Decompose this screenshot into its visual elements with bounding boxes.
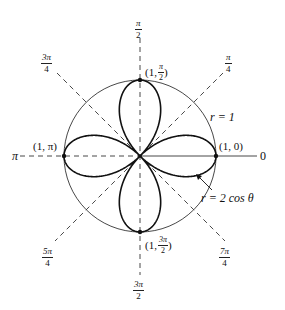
point-label-1-pi-over-2: (1, π 2 ) (145, 63, 168, 82)
angle-label-pi: π (12, 150, 18, 162)
curve-label-arrow (196, 174, 212, 190)
angle-label-pi-over-2: π 2 (135, 19, 142, 40)
angle-label-7pi-over-4: 7π 4 (219, 247, 230, 268)
angle-label-3pi-over-4: 3π 4 (41, 53, 52, 74)
point-1-3pi-over-2 (138, 230, 142, 234)
point-1-0 (214, 154, 218, 158)
angle-label-0: 0 (260, 150, 266, 162)
angle-label-3pi-over-2: 3π 2 (133, 280, 144, 301)
angle-label-5pi-over-4: 5π 4 (42, 247, 53, 268)
angle-label-pi-over-4: π 4 (225, 53, 232, 74)
curve-equation-label: r = 2 cos θ (201, 192, 254, 204)
point-label-1-3pi-over-2: (1, 3π 2 ) (145, 236, 172, 255)
point-1-pi (62, 154, 66, 158)
unit-circle-label: r = 1 (210, 111, 235, 123)
origin-point (138, 154, 142, 158)
point-label-1-0: (1, 0) (219, 141, 243, 152)
point-1-pi-over-2 (138, 78, 142, 82)
point-label-1-pi: (1, π) (33, 141, 57, 152)
